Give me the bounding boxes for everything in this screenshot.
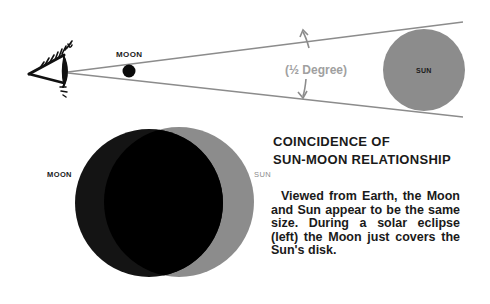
moon-label-top: MOON [116, 50, 143, 59]
angle-label: (½ Degree) [285, 63, 347, 77]
moon-small [123, 65, 136, 78]
description-text: Viewed from Earth, the Moon and Sun appe… [271, 190, 460, 258]
diagram-title: COINCIDENCE OF SUN-MOON RELATIONSHIP [273, 133, 451, 169]
sun-label-top: SUN [416, 67, 432, 74]
title-line-1: COINCIDENCE OF [273, 133, 451, 151]
title-line-2: SUN-MOON RELATIONSHIP [273, 151, 451, 169]
moon-label-bottom: MOON [47, 170, 72, 179]
sun-label-bottom: SUN [254, 170, 271, 179]
eye-icon [29, 41, 72, 97]
